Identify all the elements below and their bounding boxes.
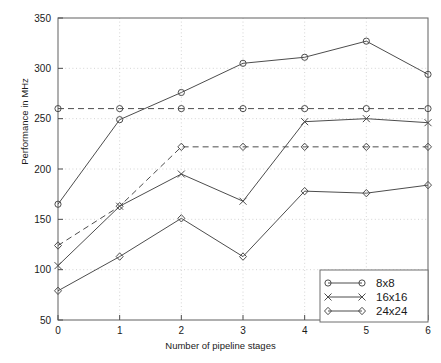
svg-text:150: 150	[34, 214, 51, 225]
svg-text:200: 200	[34, 164, 51, 175]
series-8x8-reference	[55, 106, 431, 112]
figure: 0123456501001502002503003508x816x1624x24…	[0, 0, 441, 363]
legend: 8x816x1624x24	[320, 270, 428, 322]
svg-text:4: 4	[302, 325, 308, 336]
svg-text:300: 300	[34, 63, 51, 74]
svg-text:350: 350	[34, 13, 51, 24]
svg-text:2: 2	[179, 325, 185, 336]
svg-text:1: 1	[117, 325, 123, 336]
legend-label: 16x16	[376, 291, 407, 303]
svg-text:5: 5	[364, 325, 370, 336]
svg-text:3: 3	[240, 325, 246, 336]
svg-text:100: 100	[34, 264, 51, 275]
svg-text:50: 50	[40, 315, 52, 326]
svg-text:0: 0	[55, 325, 61, 336]
svg-text:250: 250	[34, 113, 51, 124]
x-axis-label: Number of pipeline stages	[0, 340, 441, 351]
y-axis-label: Performance in MHz	[19, 42, 30, 202]
svg-text:6: 6	[425, 325, 431, 336]
legend-label: 8x8	[376, 277, 395, 289]
legend-box	[320, 270, 428, 322]
line-chart: 0123456501001502002503003508x816x1624x24	[0, 0, 441, 363]
legend-label: 24x24	[376, 305, 408, 317]
